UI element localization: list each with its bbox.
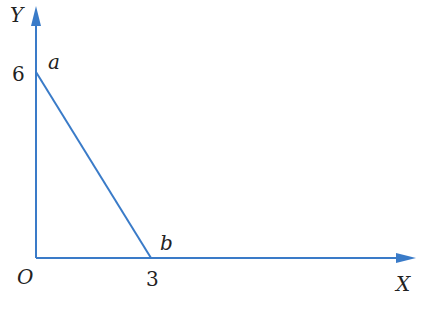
x-axis-arrow-icon xyxy=(396,253,416,263)
x-axis-label: X xyxy=(394,272,411,296)
point-a-label: a xyxy=(48,50,60,74)
point-b-label: b xyxy=(160,231,173,255)
y-tick-label: 6 xyxy=(12,62,25,86)
diagram-canvas: Y X O 6 3 a b xyxy=(0,0,424,316)
origin-label: O xyxy=(17,265,33,289)
line-ab xyxy=(36,72,151,258)
y-axis-label: Y xyxy=(10,3,25,27)
x-tick-label: 3 xyxy=(146,267,159,291)
y-axis-arrow-icon xyxy=(31,6,41,26)
